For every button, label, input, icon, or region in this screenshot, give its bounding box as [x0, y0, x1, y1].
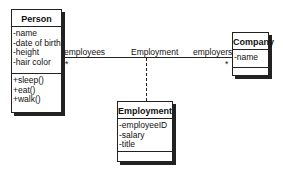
left-role-label: employees	[64, 47, 105, 57]
right-multiplicity: *	[225, 59, 228, 69]
class-name: Person	[12, 10, 61, 27]
method: +walk()	[13, 95, 60, 105]
association-name-label: Employment	[131, 47, 178, 57]
attribute: -hair color	[13, 58, 60, 68]
association-class-dashed-line	[146, 58, 147, 101]
attribute: -name	[234, 53, 267, 63]
attribute: -title	[119, 140, 171, 150]
methods-section: +sleep() +eat() +walk()	[12, 74, 61, 107]
company-class[interactable]: Company -name	[232, 32, 269, 76]
attributes-section: -employeeID -salary -title	[118, 119, 172, 152]
left-multiplicity: *	[65, 59, 68, 69]
employment-class[interactable]: Employment -employeeID -salary -title	[117, 101, 173, 162]
methods-section	[118, 152, 172, 156]
person-class[interactable]: Person -name -date of birth -height -hai…	[11, 9, 62, 113]
attributes-section: -name -date of birth -height -hair color	[12, 27, 61, 74]
class-name: Company	[233, 33, 268, 50]
methods-section	[233, 68, 268, 72]
right-role-label: employers	[193, 47, 232, 57]
attributes-section: -name	[233, 50, 268, 68]
class-name: Employment	[118, 102, 172, 119]
